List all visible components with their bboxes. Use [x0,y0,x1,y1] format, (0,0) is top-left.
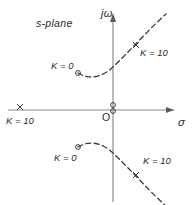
pole-cross-marker-real-axis [17,104,23,110]
locus-branch-upper [78,14,166,77]
annotation-k0-upper: K = 0 [51,61,73,71]
locus-branch-lower [78,143,166,205]
annotation-k0-lower: K = 0 [54,153,76,163]
root-locus-figure: s-plane jω σ O K = 10 K = 0 K = 10 K = 0… [0,0,196,205]
real-axis-label: σ [178,117,185,129]
root-locus-plot [0,0,196,205]
origin-label: O [102,112,110,123]
imaginary-axis-label: jω [101,8,112,19]
annotation-k10-upper: K = 10 [140,48,168,58]
real-axis [8,107,174,113]
plane-label: s-plane [36,18,73,29]
annotation-k10-real-axis: K = 10 [6,116,34,126]
annotation-k10-lower: K = 10 [143,156,171,166]
